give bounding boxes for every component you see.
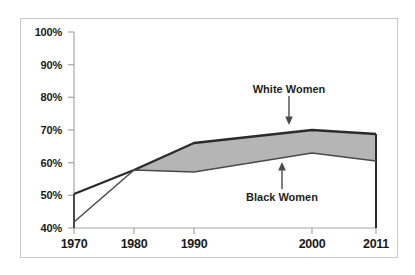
xtick-label-1980: 1980	[106, 237, 162, 251]
ytick-label-70: 70%	[20, 124, 62, 136]
white-women-down-arrow-icon	[285, 96, 293, 125]
black-women-annotation-label: Black Women	[229, 191, 335, 203]
ytick-label-90: 90%	[20, 59, 62, 71]
ytick-label-100: 100%	[20, 26, 62, 38]
xtick-label-1970: 1970	[46, 237, 102, 251]
white-women-annotation-label: White Women	[236, 83, 342, 95]
x-axis-ticks	[74, 228, 376, 234]
y-axis-ticks	[68, 32, 74, 228]
line-chart-plot	[21, 19, 397, 257]
chart-frame: 100% 90% 80% 70% 60% 50% 40% 1970 1980 1…	[20, 18, 398, 258]
ytick-label-50: 50%	[20, 189, 62, 201]
black-women-up-arrow-icon	[278, 162, 286, 189]
xtick-label-2011: 2011	[348, 237, 404, 251]
ytick-label-80: 80%	[20, 91, 62, 103]
ytick-label-40: 40%	[20, 222, 62, 234]
chart-figure: 100% 90% 80% 70% 60% 50% 40% 1970 1980 1…	[0, 0, 415, 275]
xtick-label-2000: 2000	[284, 237, 340, 251]
xtick-label-1990: 1990	[166, 237, 222, 251]
ytick-label-60: 60%	[20, 157, 62, 169]
